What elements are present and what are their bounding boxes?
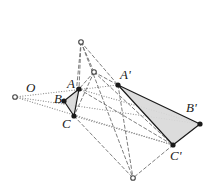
vertex-dot-C [71,113,76,118]
hollow-point-P3 [131,176,136,181]
label-B: B [54,92,62,105]
triangle-ABC [64,89,79,116]
label-Cp: C' [170,149,181,162]
vertex-dot-Ap [115,82,120,87]
dash-P1-P3 [81,42,133,178]
hollow-point-P1 [79,40,84,45]
vertex-dot-B [61,98,66,103]
label-A: A [67,77,75,90]
hollow-point-O [13,95,18,100]
dash-Cp-P3 [133,145,173,178]
label-Bp: B' [186,101,197,114]
dash-P2-Ap [94,72,118,85]
dash-P2-A [79,72,94,89]
dash-P1-Ap [81,42,118,85]
vertex-dot-Cp [170,142,175,147]
triangle-ApBpCp [118,85,200,145]
dash-P1-P2 [81,42,94,72]
vertex-dot-A [76,86,81,91]
label-Ap: A' [120,68,131,81]
label-C: C [62,117,71,130]
figure-canvas [0,0,211,193]
label-O: O [26,81,35,94]
hollow-point-P2 [92,70,97,75]
vertex-dot-Bp [197,121,202,126]
geometry-figure: OABCA'B'C' [0,0,211,193]
